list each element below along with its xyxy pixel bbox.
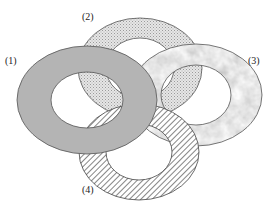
- ring-1: [17, 46, 157, 154]
- rings-diagram: (1) (2) (3) (4): [0, 0, 273, 210]
- ring-4-label: (4): [82, 184, 94, 196]
- ring-3-label: (3): [248, 55, 260, 67]
- ring-2-label: (2): [82, 11, 94, 23]
- ring-1-label: (1): [5, 55, 17, 67]
